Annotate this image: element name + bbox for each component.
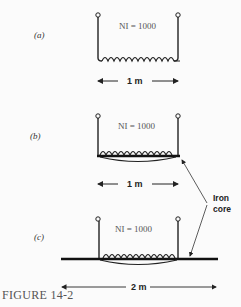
- ni-value: NI = 1000: [118, 121, 156, 131]
- dimension-label: 2 m: [131, 282, 147, 292]
- ni-value: NI = 1000: [119, 21, 157, 31]
- panel-b-label: (b): [30, 131, 41, 141]
- iron-core-annotation: Iron core: [182, 160, 231, 256]
- terminal-icon: [176, 217, 180, 221]
- terminal-icon: [176, 114, 180, 118]
- panel-a-label: (a): [34, 30, 45, 40]
- panel-b: (b) NI = 1000 1 m: [30, 114, 180, 189]
- terminal-icon: [176, 13, 180, 17]
- dimension-label: 1 m: [127, 179, 143, 189]
- dimension-label: 1 m: [127, 76, 143, 86]
- panel-a: (a) NI = 1000 1 m: [34, 13, 180, 86]
- panel-c-label: (c): [34, 232, 44, 242]
- annotation-line1: Iron: [213, 193, 229, 203]
- figure-diagram: (a) NI = 1000 1 m (b) NI = 1000 1 m (c) …: [0, 0, 241, 307]
- ni-value: NI = 1000: [115, 224, 153, 234]
- coil-winding: [102, 58, 180, 62]
- annotation-line2: core: [213, 204, 231, 214]
- terminal-icon: [96, 217, 100, 221]
- terminal-icon: [96, 13, 100, 17]
- figure-caption: FIGURE 14-2: [2, 288, 74, 303]
- terminal-icon: [96, 114, 100, 118]
